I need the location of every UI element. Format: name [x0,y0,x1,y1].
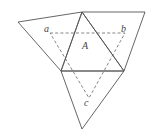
bottom-flap [61,71,124,129]
label-a: a [44,23,49,34]
right-flap [82,12,145,71]
center-triangle-face [61,12,124,71]
left-flap [18,12,82,71]
label-b: b [121,23,126,34]
label-c: c [84,97,89,108]
net-diagram: a b c A [0,0,152,140]
label-face-A: A [81,40,89,51]
